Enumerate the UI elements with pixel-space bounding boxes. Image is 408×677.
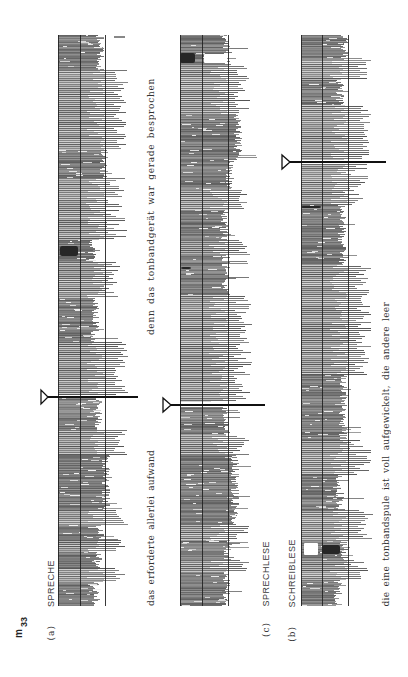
caption-sentence-2: die eine tonbandspule ist voll aufgewick… [381, 302, 391, 606]
panel-a-title: SPRECHE [46, 560, 56, 607]
marker-triangle-icon [163, 398, 171, 412]
spectrogram-traces [301, 36, 373, 606]
spectrogram-figure [0, 0, 408, 677]
panel-b-title: SCHREIBLESE [287, 539, 297, 608]
spectrogram-dark-burst [301, 206, 321, 208]
caption-sentence-1-part-1: das erforderte allerlei aufwand [146, 450, 156, 606]
spectrogram-traces [58, 36, 128, 606]
caption-sentence-1-part-2: denn das tonbandgerät war gerade besproc… [146, 78, 156, 335]
spectrogram-gap [304, 543, 318, 555]
marker-triangle-icon [282, 155, 290, 169]
spectrogram-strip-a [41, 35, 138, 606]
spectrogram-strip-b [282, 35, 386, 606]
spectrogram-dark-burst [180, 53, 195, 63]
panel-a-letter: (a) [46, 625, 56, 640]
spectrogram-gap [204, 54, 227, 63]
marker-triangle-icon [41, 390, 48, 404]
spectrogram-strip-c [163, 35, 265, 606]
panel-c-title: SPRECHLESE [261, 541, 271, 607]
figure-id-main: m [14, 629, 24, 638]
panel-c-letter: (c) [261, 622, 271, 637]
spectrogram-dark-burst [60, 246, 78, 256]
spectrogram-dark-burst [181, 267, 191, 269]
panel-b-letter: (b) [287, 626, 297, 642]
figure-id-subscript: 33 [19, 617, 29, 627]
spectrogram-dark-burst [322, 545, 340, 554]
spectrogram-traces [180, 36, 257, 606]
